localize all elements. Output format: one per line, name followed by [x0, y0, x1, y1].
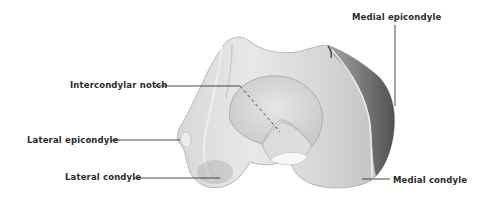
femur-diagram: Intercondylar notch Medial epicondyle La… [0, 0, 483, 199]
label-lateral-epicondyle: Lateral epicondyle [27, 135, 118, 145]
femur-illustration [0, 0, 483, 199]
label-medial-condyle: Medial condyle [393, 175, 467, 185]
label-lateral-condyle: Lateral condyle [65, 172, 141, 182]
label-medial-epicondyle: Medial epicondyle [352, 12, 441, 22]
label-intercondylar-notch: Intercondylar notch [70, 80, 167, 90]
